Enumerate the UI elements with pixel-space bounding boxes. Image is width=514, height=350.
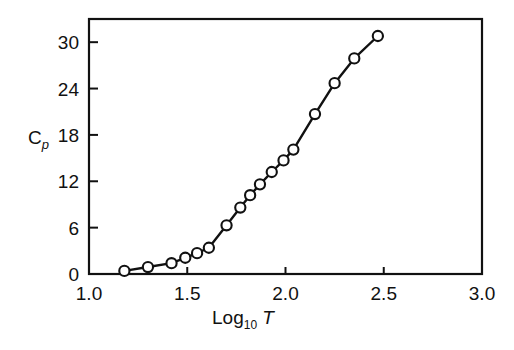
data-point-0 (119, 266, 129, 276)
data-point-8 (245, 190, 255, 200)
x-tick-label-1: 1.5 (157, 284, 217, 303)
x-tick-label-0: 1.0 (59, 284, 119, 303)
data-point-5 (204, 243, 214, 253)
x-tick-label-2: 2.0 (256, 284, 316, 303)
x-axis-title-variable: T (262, 307, 274, 328)
y-axis-title-subscript: p (42, 137, 49, 152)
data-point-9 (255, 179, 265, 189)
y-tick-label-0: 0 (23, 265, 79, 284)
data-point-4 (192, 248, 202, 258)
data-point-10 (267, 167, 277, 177)
y-axis-title: Cp (28, 128, 49, 151)
data-point-12 (288, 144, 298, 154)
data-point-11 (278, 155, 288, 165)
x-tick-label-3: 2.5 (354, 284, 414, 303)
x-axis-title: Log10 T (212, 308, 274, 331)
data-point-2 (166, 258, 176, 268)
y-tick-label-4: 24 (23, 80, 79, 99)
y-tick-label-2: 12 (23, 172, 79, 191)
data-point-13 (310, 109, 320, 119)
x-axis-title-main: Log (212, 307, 244, 328)
data-point-16 (373, 31, 383, 41)
data-point-6 (221, 220, 231, 230)
data-point-3 (180, 253, 190, 263)
y-axis-title-main: C (28, 127, 42, 148)
data-point-7 (235, 202, 245, 212)
data-point-14 (330, 78, 340, 88)
y-tick-label-5: 30 (23, 33, 79, 52)
data-point-1 (143, 262, 153, 272)
y-tick-label-1: 6 (23, 219, 79, 238)
chart-figure: 0612182430 1.01.52.02.53.0 Cp Log10 T (0, 0, 514, 350)
x-axis-title-subscript: 10 (244, 318, 257, 332)
data-point-15 (349, 53, 359, 63)
x-tick-label-4: 3.0 (452, 284, 512, 303)
